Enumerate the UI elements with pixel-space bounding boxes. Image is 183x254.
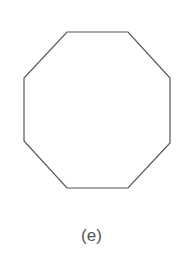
octagon-figure — [0, 0, 183, 254]
octagon-shape — [24, 32, 170, 188]
figure-label: (e) — [0, 226, 183, 246]
